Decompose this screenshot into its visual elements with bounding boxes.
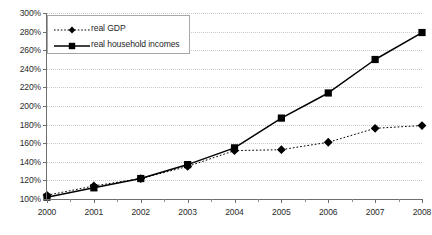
y-axis-label: 220% bbox=[20, 82, 41, 92]
y-axis-label: 260% bbox=[20, 45, 41, 55]
x-axis-tick bbox=[235, 199, 236, 203]
y-axis-label: 120% bbox=[20, 175, 41, 185]
data-point-square-marker bbox=[278, 114, 285, 121]
y-axis-label: 160% bbox=[20, 138, 41, 148]
data-point-square-marker bbox=[231, 144, 238, 151]
x-axis-tick bbox=[422, 199, 423, 203]
x-axis-minor-tick bbox=[258, 199, 259, 202]
data-point-square-marker bbox=[137, 175, 144, 182]
x-axis-minor-tick bbox=[70, 199, 71, 202]
data-point-square-marker bbox=[90, 184, 97, 191]
legend-item-real-gdp: real GDP bbox=[53, 20, 184, 36]
x-axis-ticks: 200020012002200320042005200620072008 bbox=[47, 199, 422, 223]
legend-key-solid-square-icon bbox=[53, 38, 91, 50]
y-axis-label: 240% bbox=[20, 64, 41, 74]
y-axis-tick bbox=[43, 13, 47, 14]
x-axis-label: 2007 bbox=[366, 207, 385, 217]
y-axis-tick bbox=[43, 162, 47, 163]
data-point-diamond-marker bbox=[418, 121, 427, 130]
y-axis-tick bbox=[43, 143, 47, 144]
y-axis-tick bbox=[43, 125, 47, 126]
y-axis-label: 140% bbox=[20, 157, 41, 167]
y-axis-label: 200% bbox=[20, 101, 41, 111]
x-axis-label: 2001 bbox=[85, 207, 104, 217]
y-axis-tick bbox=[43, 106, 47, 107]
data-point-diamond-marker bbox=[324, 138, 333, 147]
x-axis-minor-tick bbox=[352, 199, 353, 202]
x-axis-tick bbox=[375, 199, 376, 203]
x-axis-tick bbox=[328, 199, 329, 203]
x-axis-minor-tick bbox=[399, 199, 400, 202]
legend-label-real-household-incomes: real household incomes bbox=[91, 39, 180, 49]
legend-label-real-gdp: real GDP bbox=[91, 23, 126, 33]
x-axis-minor-tick bbox=[305, 199, 306, 202]
x-axis-label: 2004 bbox=[225, 207, 244, 217]
y-axis-label: 180% bbox=[20, 120, 41, 130]
series-line bbox=[47, 126, 422, 196]
x-axis-label: 2005 bbox=[272, 207, 291, 217]
y-axis-label: 280% bbox=[20, 27, 41, 37]
y-axis-tick bbox=[43, 69, 47, 70]
legend-key-dotted-diamond-icon bbox=[53, 22, 91, 34]
x-axis-tick bbox=[188, 199, 189, 203]
y-axis-label: 100% bbox=[20, 194, 41, 204]
x-axis-label: 2000 bbox=[38, 207, 57, 217]
x-axis-tick bbox=[94, 199, 95, 203]
series-real-gdp bbox=[43, 121, 427, 200]
x-axis-tick bbox=[141, 199, 142, 203]
data-point-diamond-marker bbox=[277, 145, 286, 154]
data-point-square-marker bbox=[184, 161, 191, 168]
y-axis-label: 300% bbox=[20, 8, 41, 18]
series-real-household-incomes bbox=[43, 29, 425, 201]
data-point-square-marker bbox=[418, 29, 425, 36]
x-axis-minor-tick bbox=[164, 199, 165, 202]
series-line bbox=[47, 33, 422, 198]
y-axis-tick bbox=[43, 87, 47, 88]
x-axis-tick bbox=[47, 199, 48, 203]
x-axis-minor-tick bbox=[211, 199, 212, 202]
chart-container: 100%120%140%160%180%200%220%240%260%280%… bbox=[0, 0, 432, 235]
legend-item-real-household-incomes: real household incomes bbox=[53, 36, 184, 52]
x-axis-tick bbox=[281, 199, 282, 203]
data-point-square-marker bbox=[325, 89, 332, 96]
data-point-square-marker bbox=[372, 56, 379, 63]
x-axis-label: 2003 bbox=[178, 207, 197, 217]
x-axis-label: 2008 bbox=[413, 207, 432, 217]
chart-legend: real GDP real household incomes bbox=[47, 15, 190, 54]
y-axis-tick bbox=[43, 180, 47, 181]
x-axis-label: 2006 bbox=[319, 207, 338, 217]
x-axis-label: 2002 bbox=[131, 207, 150, 217]
x-axis-minor-tick bbox=[117, 199, 118, 202]
data-point-diamond-marker bbox=[371, 124, 380, 133]
